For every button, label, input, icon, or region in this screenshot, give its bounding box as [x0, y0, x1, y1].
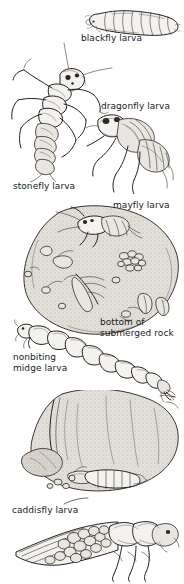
dragonfly-larva-figure: [86, 106, 184, 194]
rock-underside-figure: [10, 390, 182, 515]
illustration-plate: blackfly larva: [0, 0, 184, 584]
label-dragonfly-larva: dragonfly larva: [101, 101, 170, 112]
label-mayfly-larva: mayfly larva: [113, 200, 170, 211]
label-stonefly-larva: stonefly larva: [13, 181, 75, 192]
caddisfly-larva-figure: [14, 508, 180, 582]
label-nonbiting-midge-larva: nonbiting midge larva: [13, 352, 67, 373]
